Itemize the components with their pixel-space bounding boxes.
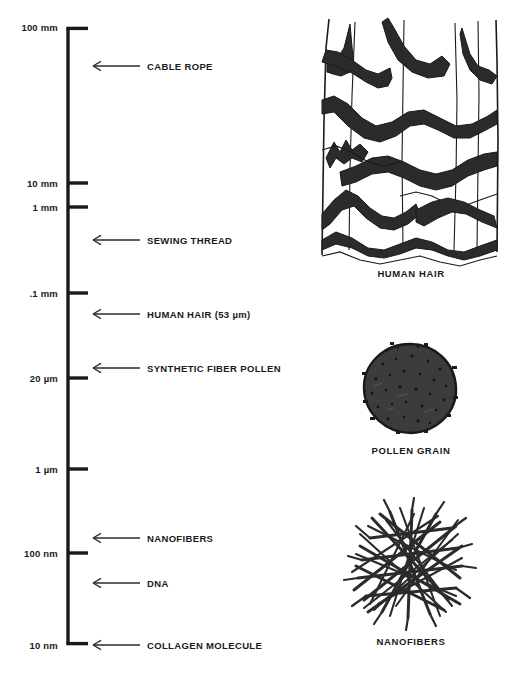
axis-tick-label: 10 nm xyxy=(30,640,58,651)
axis-tick-label: 1 mm xyxy=(32,202,58,213)
callout-arrow xyxy=(93,533,140,542)
illustration-caption-pollen-grain: POLLEN GRAIN xyxy=(372,445,451,456)
callout-label: CABLE ROPE xyxy=(147,61,213,72)
callout-arrow-group xyxy=(93,61,140,649)
nanofibers-illustration xyxy=(344,498,476,630)
callout-label: NANOFIBERS xyxy=(147,533,213,544)
callout-arrow xyxy=(93,309,140,318)
axis-tick-label: 100 nm xyxy=(24,548,58,559)
callout-label: COLLAGEN MOLECULE xyxy=(147,640,262,651)
callout-label: SYNTHETIC FIBER POLLEN xyxy=(147,363,281,374)
callout-label: HUMAN HAIR (53 µm) xyxy=(147,309,251,320)
callout-arrow xyxy=(93,235,140,244)
callout-label: DNA xyxy=(147,578,169,589)
callout-arrow xyxy=(93,578,140,587)
axis-tick-group xyxy=(67,183,88,553)
axis-tick-label: 1 µm xyxy=(35,464,58,475)
callout-arrow xyxy=(93,363,140,372)
pollen-grain-illustration xyxy=(362,342,458,434)
size-scale-figure: 100 mm10 mm1 mm.1 mm20 µm1 µm100 nm10 nm… xyxy=(0,0,515,674)
axis-tick-label: 10 mm xyxy=(27,178,58,189)
callout-label: SEWING THREAD xyxy=(147,235,232,246)
callout-arrow xyxy=(93,61,140,70)
axis-tick-label: 20 µm xyxy=(30,373,58,384)
illustration-caption-human-hair: HUMAN HAIR xyxy=(377,268,444,279)
illustration-caption-nanofibers: NANOFIBERS xyxy=(377,636,446,647)
figure-canvas xyxy=(0,0,515,674)
human-hair-illustration xyxy=(322,18,498,266)
callout-arrow xyxy=(93,640,140,649)
axis-tick-label: .1 mm xyxy=(30,288,58,299)
axis-tick-label: 100 mm xyxy=(21,22,58,33)
